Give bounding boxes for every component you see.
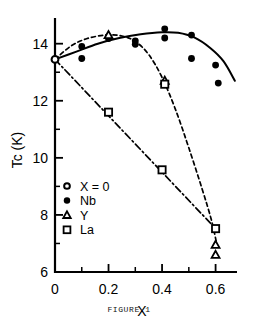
x-tick-label: 0.2: [99, 281, 119, 297]
legend-label-la: La: [80, 223, 94, 237]
legend-label-nb: Nb: [80, 194, 96, 208]
y-tick-label: 10: [32, 150, 48, 166]
tc-vs-x-scatter-chart: 00.20.40.6 68101214 X = 0NbYLa XTc (K): [0, 0, 258, 325]
y-tick-label: 14: [32, 36, 48, 52]
y-tick-label: 6: [40, 264, 48, 280]
data-point-marker: [161, 25, 168, 32]
legend-marker-x0: [64, 183, 70, 189]
data-point-marker: [132, 41, 139, 48]
data-point-marker: [161, 81, 168, 88]
x-tick-label: 0: [51, 281, 59, 297]
figure-container: 00.20.40.6 68101214 X = 0NbYLa XTc (K) F…: [0, 0, 258, 325]
y-axis-label: Tc (K): [9, 132, 25, 169]
data-point-marker: [212, 241, 220, 248]
data-point-marker: [105, 109, 112, 116]
legend-marker-nb: [64, 197, 70, 203]
data-point-marker: [78, 55, 85, 62]
data-point-marker: [105, 31, 113, 38]
data-point-marker: [212, 62, 219, 69]
data-point-marker: [212, 225, 219, 232]
legend-label-x0: X = 0: [80, 180, 110, 194]
data-point-marker: [188, 32, 195, 39]
data-point-marker: [215, 80, 222, 87]
figure-caption: FIGURE 1: [0, 305, 258, 314]
data-point-marker: [78, 43, 85, 50]
axis-labels: XTc (K): [9, 132, 147, 319]
data-point-marker: [212, 251, 220, 258]
data-point-marker: [158, 166, 165, 173]
y-tick-label: 12: [32, 93, 48, 109]
data-point-marker: [161, 35, 168, 42]
y-axis-tick-labels: 68101214: [32, 36, 48, 280]
legend-label-y: Y: [80, 209, 89, 223]
chart-legend: X = 0NbYLa: [63, 180, 109, 238]
data-point-marker: [52, 56, 59, 63]
x-tick-label: 0.4: [152, 281, 172, 297]
y-tick-label: 8: [40, 207, 48, 223]
x-axis-tick-labels: 00.20.40.6: [51, 281, 225, 297]
data-point-marker: [188, 55, 195, 62]
legend-marker-y: [63, 211, 70, 218]
data-points: [52, 25, 222, 257]
x-tick-label: 0.6: [206, 281, 226, 297]
legend-marker-la: [64, 226, 71, 233]
